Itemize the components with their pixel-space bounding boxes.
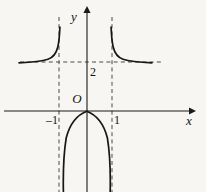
origin-label: O [72, 91, 82, 106]
graph-figure: y x O 2 –1 1 [0, 0, 206, 192]
y-axis-label: y [69, 9, 77, 24]
graph-canvas: y x O 2 –1 1 [0, 0, 206, 192]
x-axis-label: x [185, 113, 192, 128]
x-tick-label-one: 1 [114, 113, 120, 127]
y-tick-label-two: 2 [90, 65, 96, 79]
figure-background [0, 0, 206, 192]
x-tick-label-minus-one: –1 [45, 113, 58, 127]
